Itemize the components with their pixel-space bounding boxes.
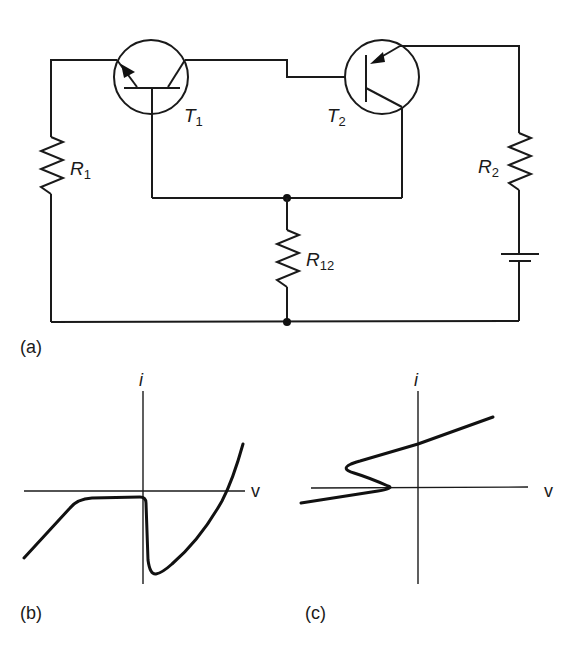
c-x-axis <box>311 487 528 488</box>
transistor-t2 <box>345 40 419 114</box>
label-t2: T2 <box>327 105 346 129</box>
label-r1: R1 <box>70 158 91 182</box>
junction-dot-bottom <box>283 318 291 326</box>
resistor-r2 <box>509 133 531 190</box>
label-t1: T1 <box>184 105 203 129</box>
wire-left-top <box>51 60 117 137</box>
c-x-axis-label: v <box>544 481 553 501</box>
c-iv-curve <box>301 417 493 503</box>
b-x-axis-label: v <box>251 481 260 501</box>
panel-label-b: (b) <box>20 603 42 623</box>
label-r2: R2 <box>478 156 499 180</box>
resistor-r1 <box>41 137 63 194</box>
wire-t1-collector-to-t2-base <box>185 60 346 77</box>
figure-canvas: T1 T2 R1 R2 R12 (a) i v (b) i v (c) <box>0 0 568 652</box>
battery <box>501 254 539 261</box>
b-y-axis-label: i <box>139 370 144 390</box>
c-y-axis-label: i <box>414 370 419 390</box>
iv-plot-panel-b: i v (b) <box>20 370 260 623</box>
label-r12: R12 <box>306 249 334 273</box>
circuit-panel-a: T1 T2 R1 R2 R12 (a) <box>20 40 539 357</box>
transistor-t1 <box>114 40 188 198</box>
iv-plot-panel-c: i v (c) <box>301 370 553 623</box>
resistor-r12 <box>277 230 299 287</box>
b-iv-curve <box>24 444 243 574</box>
panel-label-c: (c) <box>305 603 326 623</box>
panel-label-a: (a) <box>20 337 42 357</box>
